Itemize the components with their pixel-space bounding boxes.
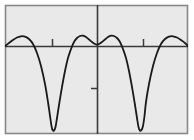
plot-figure (0, 0, 194, 140)
plot-canvas (0, 0, 194, 140)
plot-area-background (5, 5, 188, 134)
